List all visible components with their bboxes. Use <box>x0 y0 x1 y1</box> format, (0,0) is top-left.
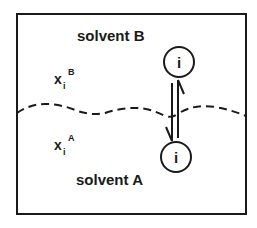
interface-line <box>17 104 246 117</box>
svg-text:B: B <box>68 67 75 77</box>
solvent-b-label: solvent B <box>77 27 145 44</box>
mole-fraction-b: x i B <box>54 67 75 91</box>
equilibrium-arrows-icon <box>166 80 184 141</box>
svg-text:A: A <box>68 133 75 143</box>
svg-text:x: x <box>54 71 62 87</box>
species-i-lower: i <box>161 142 191 172</box>
svg-text:x: x <box>54 137 62 153</box>
svg-text:i: i <box>177 54 181 71</box>
solvent-a-label: solvent A <box>76 171 143 188</box>
mole-fraction-a: x i A <box>54 133 75 157</box>
svg-text:i: i <box>174 149 178 166</box>
svg-text:i: i <box>63 81 66 91</box>
species-i-upper: i <box>164 47 194 77</box>
svg-text:i: i <box>63 147 66 157</box>
partition-diagram: solvent B solvent A x i B x i A i i <box>0 0 257 228</box>
